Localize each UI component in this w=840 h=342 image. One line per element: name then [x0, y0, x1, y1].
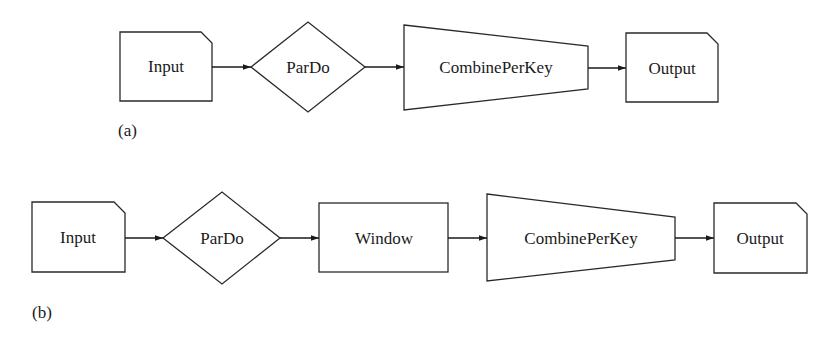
- node-label: Output: [648, 59, 696, 78]
- node-label: ParDo: [200, 229, 243, 248]
- node-input-a: Input: [120, 32, 212, 101]
- node-input-b: Input: [32, 202, 125, 272]
- node-label: ParDo: [286, 58, 329, 77]
- node-combineperkey-a: CombinePerKey: [404, 25, 588, 110]
- node-label: CombinePerKey: [524, 229, 638, 248]
- caption-b: (b): [32, 303, 52, 322]
- node-output-a: Output: [626, 33, 718, 102]
- diagram-b: Input ParDo Window CombinePerKey Output …: [32, 192, 807, 322]
- pipeline-diagrams: Input ParDo CombinePerKey Output (a) Inp…: [0, 0, 840, 342]
- node-label: Input: [148, 57, 184, 76]
- node-combineperkey-b: CombinePerKey: [487, 194, 675, 281]
- diagram-a: Input ParDo CombinePerKey Output (a): [118, 22, 718, 140]
- node-label: Output: [736, 229, 784, 248]
- node-window-b: Window: [319, 203, 448, 272]
- node-pardo-a: ParDo: [251, 22, 365, 112]
- node-label: CombinePerKey: [439, 58, 553, 77]
- node-pardo-b: ParDo: [163, 192, 280, 284]
- node-label: Window: [355, 229, 414, 248]
- node-label: Input: [60, 228, 96, 247]
- caption-a: (a): [118, 121, 137, 140]
- node-output-b: Output: [714, 203, 807, 273]
